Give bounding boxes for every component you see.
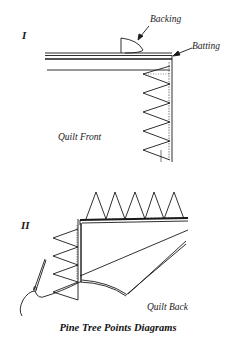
label-backing: Backing [150,15,181,25]
thread-path [20,282,80,316]
pine-tree-points-diagram: I Backing Batting Quilt Front II Quilt B… [0,0,236,347]
label-arrows [138,26,192,56]
panel-2-quilt-back [80,230,188,296]
diagram-drawing [0,0,236,347]
label-quilt-back: Quilt Back [147,303,188,313]
label-quilt-front: Quilt Front [58,133,101,143]
panel-1-layers [45,38,172,162]
figure-caption: Pine Tree Points Diagrams [0,323,236,334]
needle-icon [34,259,46,292]
panel-2-numeral: II [21,220,30,231]
label-batting: Batting [192,42,220,52]
panel-2-left-points [53,229,78,300]
panel-1-points [143,66,170,160]
panel-2-top-points [86,192,184,219]
panel-2-top-edge [77,218,188,301]
panel-1-numeral: I [22,30,26,41]
